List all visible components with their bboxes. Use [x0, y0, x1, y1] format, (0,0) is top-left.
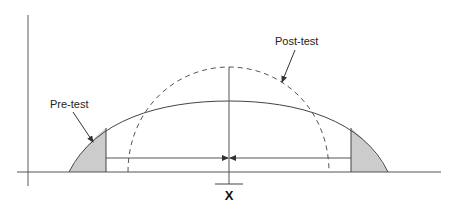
post-test-pointer-arrow	[282, 50, 295, 82]
mean-label: X	[225, 188, 234, 203]
pre-post-test-distribution-diagram: X Pre-test Post-test	[0, 0, 458, 210]
pre-test-label: Pre-test	[50, 98, 89, 110]
post-test-label: Post-test	[275, 35, 318, 47]
pre-test-pointer-arrow	[73, 112, 93, 142]
